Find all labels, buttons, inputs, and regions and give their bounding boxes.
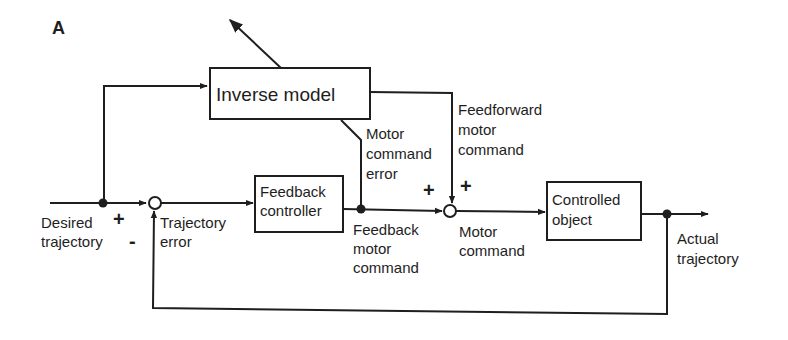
actual-trajectory-line1: Actual bbox=[677, 230, 719, 247]
feedforward-line1: Feedforward bbox=[458, 101, 542, 118]
desired-trajectory-line1: Desired bbox=[41, 214, 93, 231]
sum1-minus-sign: - bbox=[129, 230, 136, 252]
trajectory-error-line1: Trajectory bbox=[160, 214, 227, 231]
feedback-motor-command-line3: command bbox=[353, 259, 419, 276]
controlled-object-label-line1: Controlled bbox=[552, 191, 620, 208]
motor-command-error-line3: error bbox=[366, 165, 398, 182]
feedback-motor-command-label: Feedback motor command bbox=[353, 221, 419, 276]
inverse-model-label: Inverse model bbox=[216, 84, 335, 105]
motor-command-error-line2: command bbox=[366, 145, 432, 162]
motor-command-line1: Motor bbox=[459, 223, 497, 240]
motor-command-label: Motor command bbox=[459, 223, 525, 259]
motor-command-line2: command bbox=[459, 242, 525, 259]
feedback-motor-command-line1: Feedback bbox=[353, 221, 419, 238]
sum2-left-plus-sign: + bbox=[423, 179, 435, 201]
actual-trajectory-line2: trajectory bbox=[677, 250, 739, 267]
motor-command-wire bbox=[456, 211, 545, 212]
feedforward-line3: command bbox=[458, 141, 524, 158]
trajectory-error-line2: error bbox=[160, 233, 192, 250]
feedback-controller-block: Feedback controller bbox=[255, 176, 343, 232]
inverse-model-block: Inverse model bbox=[210, 68, 370, 119]
diagram-canvas: A Inverse model Feedback controller Cont… bbox=[0, 0, 788, 340]
panel-label: A bbox=[52, 18, 65, 38]
summing-junction-2 bbox=[444, 205, 456, 217]
sum1-plus-sign: + bbox=[113, 208, 125, 230]
feedforward-motor-command-label: Feedforward motor command bbox=[458, 101, 542, 158]
sum2-top-plus-sign: + bbox=[460, 175, 472, 197]
controlled-object-label-line2: object bbox=[552, 211, 593, 228]
summing-junction-1 bbox=[149, 197, 161, 209]
motor-command-error-line1: Motor bbox=[366, 125, 404, 142]
controlled-object-block: Controlled object bbox=[547, 182, 641, 240]
trajectory-error-label: Trajectory error bbox=[160, 214, 227, 250]
learning-signal-arrow bbox=[230, 20, 281, 68]
desired-trajectory-line2: trajectory bbox=[41, 233, 103, 250]
feedback-controller-label-line2: controller bbox=[260, 202, 322, 219]
feedforward-line2: motor bbox=[458, 121, 496, 138]
feedback-error-learning-diagram: A Inverse model Feedback controller Cont… bbox=[0, 0, 788, 340]
actual-trajectory-label: Actual trajectory bbox=[677, 230, 739, 267]
motor-command-error-label: Motor command error bbox=[366, 125, 432, 182]
desired-to-inverse-wire bbox=[104, 86, 207, 203]
desired-trajectory-label: Desired trajectory bbox=[41, 214, 103, 250]
feedback-controller-label-line1: Feedback bbox=[260, 183, 326, 200]
feedback-motor-command-line2: motor bbox=[353, 240, 391, 257]
